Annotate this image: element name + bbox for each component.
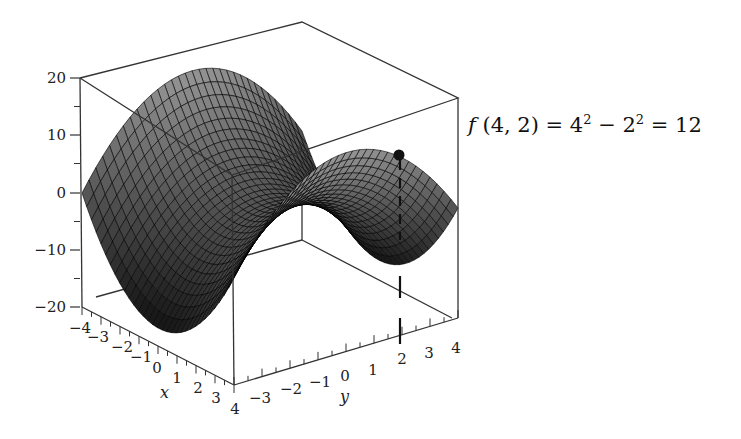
- annotation-exp2: 2: [636, 112, 644, 127]
- y-tick-label: −1: [309, 373, 331, 391]
- annotation-minus: − 2: [592, 113, 636, 137]
- annotation-args: (4, 2) = 4: [476, 113, 583, 137]
- y-tick-label: 3: [424, 344, 434, 362]
- x-tick-label: −3: [87, 328, 109, 346]
- y-axis: −3−2−101234y: [234, 310, 461, 407]
- x-tick-label: 1: [172, 369, 182, 387]
- y-tick-label: 0: [340, 367, 350, 385]
- surface-plot: 20100−10−20 −4−3−2−101234x −3−2−101234y: [0, 0, 741, 439]
- y-tick-label: −2: [280, 380, 302, 398]
- highlight-point: [394, 150, 405, 161]
- x-axis-label: x: [160, 383, 169, 402]
- x-tick-label: −1: [130, 348, 152, 366]
- annotation-exp1: 2: [583, 112, 591, 127]
- y-tick-label: 4: [451, 339, 461, 357]
- y-tick-label: 1: [368, 361, 378, 379]
- z-tick-label: 20: [47, 69, 66, 87]
- y-tick-label: −3: [249, 389, 271, 407]
- y-tick-label: 2: [397, 350, 407, 368]
- x-tick-label: 2: [193, 379, 203, 397]
- z-axis: 20100−10−20: [34, 69, 80, 316]
- x-tick-label: 0: [152, 359, 162, 377]
- annotation-result: = 12: [644, 113, 702, 137]
- z-tick-label: −20: [34, 298, 66, 316]
- x-tick-label: 3: [211, 389, 221, 407]
- z-tick-label: −10: [34, 241, 66, 259]
- z-tick-label: 0: [56, 184, 66, 202]
- function-annotation: f (4, 2) = 42 − 22 = 12: [468, 112, 702, 137]
- z-tick-label: 10: [47, 126, 66, 144]
- annotation-function-name: f: [468, 113, 476, 137]
- saddle-surface: [82, 68, 458, 333]
- x-tick-label: 4: [230, 400, 240, 418]
- y-axis-label: y: [339, 387, 350, 406]
